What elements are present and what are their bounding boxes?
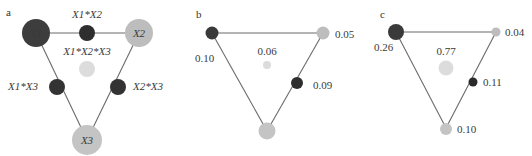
node-x1x3-label: X1*X3 <box>7 80 38 92</box>
node-x2x3 <box>291 77 303 89</box>
node-x1-value: 0.10 <box>195 52 215 64</box>
node-x3-label: X3 <box>80 134 94 146</box>
node-x3-value: 0.10 <box>457 123 477 135</box>
panel-a: a X1 X2 X3 X1*X2 X1*X2*X3 X1*X3 X2*X3 <box>6 6 163 155</box>
node-x1x2x3-label: X1*X2*X3 <box>62 45 111 57</box>
node-x3 <box>440 123 452 135</box>
node-x2 <box>492 28 501 37</box>
node-x2x3 <box>469 78 478 87</box>
panel-b: b 0.10 0.05 0.06 0.09 <box>195 8 355 140</box>
node-x1x2x3 <box>263 61 271 69</box>
node-x2 <box>317 27 330 40</box>
node-x2x3-label: X2*X3 <box>132 80 163 92</box>
node-x2-value: 0.05 <box>335 28 355 40</box>
node-x1 <box>206 27 219 40</box>
panel-c-label: c <box>380 8 385 20</box>
node-x1 <box>388 24 404 40</box>
panel-c: c 0.26 0.04 0.77 0.11 0.10 <box>374 8 525 135</box>
node-x2x3-value: 0.09 <box>313 79 333 91</box>
panel-a-label: a <box>6 6 11 18</box>
node-x2x3-value: 0.11 <box>483 76 502 88</box>
node-x1x2 <box>79 25 95 41</box>
node-x2-label: X2 <box>132 27 146 39</box>
node-x1x3 <box>49 79 65 95</box>
node-x2-value: 0.04 <box>505 26 525 38</box>
node-x1x2x3-value: 0.06 <box>257 45 277 57</box>
node-x1-label: X1 <box>29 27 42 39</box>
interaction-diagram: a X1 X2 X3 X1*X2 X1*X2*X3 X1*X3 X2*X3 b … <box>0 0 532 156</box>
node-x1x2x3 <box>79 61 95 77</box>
node-x1-value: 0.26 <box>374 41 394 53</box>
node-x2x3 <box>110 79 126 95</box>
node-x1x2x3-value: 0.77 <box>436 45 456 57</box>
node-x1x2-label: X1*X2 <box>71 8 102 20</box>
panel-b-label: b <box>196 8 202 20</box>
node-x1x2x3 <box>439 61 454 76</box>
node-x3 <box>259 123 276 140</box>
